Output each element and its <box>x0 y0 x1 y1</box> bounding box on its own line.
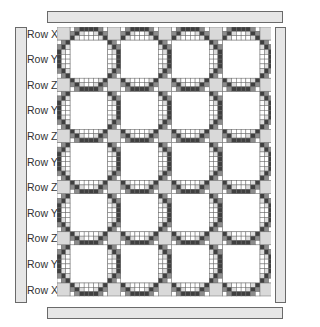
sashing-cell <box>163 120 167 125</box>
sashing-cell <box>209 73 213 78</box>
sashing-cell <box>232 78 237 82</box>
sashing-cell <box>94 287 99 291</box>
cornerstone <box>108 129 121 142</box>
sashing-cell <box>94 129 99 133</box>
sashing-cell <box>200 240 205 244</box>
sashing-cell <box>167 110 171 115</box>
sashing-cell <box>135 240 140 244</box>
sashing-cell <box>154 87 159 91</box>
sashing-cell <box>84 185 89 189</box>
sashing-cell <box>167 115 171 120</box>
sashing-cell <box>66 45 70 50</box>
sashing-cell <box>84 287 89 291</box>
sashing-cell <box>112 176 116 181</box>
sashing-cell <box>125 287 130 291</box>
sashing-cell <box>57 91 61 96</box>
sashing-cell <box>108 40 112 45</box>
sashing-cell <box>236 31 241 35</box>
sashing-cell <box>218 120 222 125</box>
sashing-cell <box>112 120 116 125</box>
sashing-cell <box>144 129 149 133</box>
sashing-cell <box>140 36 145 40</box>
sashing-cell <box>57 273 61 278</box>
sashing-cell <box>57 176 61 181</box>
sashing-cell <box>214 171 218 176</box>
sashing-cell <box>186 240 191 244</box>
sashing-cell <box>159 73 163 78</box>
sashing-cell <box>209 110 213 115</box>
sashing-cell <box>108 157 112 162</box>
sashing-cell <box>61 166 65 171</box>
sashing-cell <box>57 250 61 255</box>
cornerstone <box>108 283 121 296</box>
sashing-cell <box>84 283 89 287</box>
sashing-cell <box>269 203 271 208</box>
sashing-cell <box>116 106 120 111</box>
sashing-cell <box>116 152 120 157</box>
sashing-cell <box>251 27 256 31</box>
sashing-cell <box>112 101 116 106</box>
sashing-cell <box>103 232 108 236</box>
sashing-cell <box>209 152 213 157</box>
sashing-cell <box>251 185 256 189</box>
sashing-cell <box>163 96 167 101</box>
sashing-cell <box>264 110 268 115</box>
sashing-cell <box>149 36 154 40</box>
sashing-cell <box>260 213 264 218</box>
sashing-cell <box>163 101 167 106</box>
sashing-cell <box>79 87 84 91</box>
sashing-cell <box>61 147 65 152</box>
sashing-cell <box>172 236 177 240</box>
sashing-cell <box>66 273 70 278</box>
sashing-cell <box>260 194 264 199</box>
sashing-cell <box>57 120 61 125</box>
sashing-cell <box>269 227 271 232</box>
sashing-cell <box>269 278 271 283</box>
sashing-cell <box>121 189 126 193</box>
sashing-cell <box>103 27 108 31</box>
sashing-cell <box>75 138 80 142</box>
sashing-cell <box>163 198 167 203</box>
sashing-cell <box>236 287 241 291</box>
sashing-cell <box>149 236 154 240</box>
sashing-cell <box>241 189 246 193</box>
sashing-cell <box>103 236 108 240</box>
sashing-cell <box>61 194 65 199</box>
sashing-cell <box>108 64 112 69</box>
sashing-cell <box>255 78 260 82</box>
sashing-cell <box>154 27 159 31</box>
sashing-cell <box>214 64 218 69</box>
sashing-cell <box>172 31 177 35</box>
sashing-cell <box>125 283 130 287</box>
sashing-cell <box>269 198 271 203</box>
sashing-cell <box>172 87 177 91</box>
sashing-cell <box>163 91 167 96</box>
sashing-cell <box>66 278 70 283</box>
sashing-cell <box>112 106 116 111</box>
sashing-cell <box>66 147 70 152</box>
sashing-cell <box>112 245 116 250</box>
sashing-cell <box>116 69 120 74</box>
sashing-cell <box>167 152 171 157</box>
sashing-cell <box>140 31 145 35</box>
sashing-cell <box>260 273 264 278</box>
sashing-cell <box>135 287 140 291</box>
sashing-cell <box>70 31 75 35</box>
sashing-cell <box>236 36 241 40</box>
sashing-cell <box>255 189 260 193</box>
sashing-cell <box>112 59 116 64</box>
sashing-cell <box>125 27 130 31</box>
sashing-cell <box>209 213 213 218</box>
sashing-cell <box>61 142 65 147</box>
sashing-cell <box>264 208 268 213</box>
sashing-cell <box>236 138 241 142</box>
sashing-cell <box>172 181 177 185</box>
sashing-cell <box>98 287 103 291</box>
sashing-cell <box>103 292 108 296</box>
quilt-block <box>222 91 260 129</box>
sashing-cell <box>227 236 232 240</box>
sashing-cell <box>116 227 120 232</box>
sashing-cell <box>61 217 65 222</box>
sashing-cell <box>108 59 112 64</box>
sashing-cell <box>61 198 65 203</box>
